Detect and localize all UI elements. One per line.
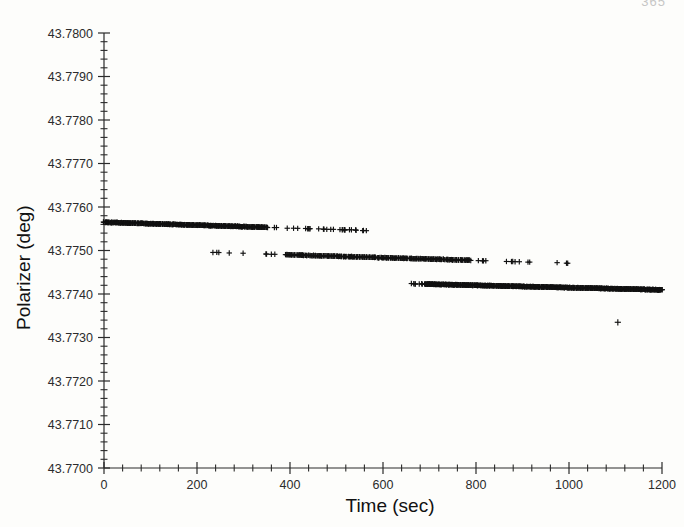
y-tick-label: 43.7800	[48, 27, 93, 41]
x-tick-label: 600	[373, 478, 394, 492]
y-tick-label: 43.7730	[48, 331, 93, 345]
y-tick-label: 43.7780	[48, 114, 93, 128]
y-tick-label: 43.7700	[48, 462, 93, 476]
data-points	[101, 219, 665, 325]
scatter-plot: 43.770043.771043.772043.773043.774043.77…	[0, 0, 684, 527]
x-tick-label: 400	[280, 478, 301, 492]
y-tick-label: 43.7760	[48, 201, 93, 215]
x-tick-label: 1200	[648, 478, 676, 492]
y-tick-label: 43.7720	[48, 375, 93, 389]
y-tick-label: 43.7770	[48, 157, 93, 171]
plot-axes	[104, 33, 662, 468]
x-tick-label: 200	[187, 478, 208, 492]
y-tick-label: 43.7740	[48, 288, 93, 302]
x-tick-label: 1000	[555, 478, 583, 492]
x-tick-label: 0	[101, 478, 108, 492]
y-tick-label: 43.7790	[48, 70, 93, 84]
x-tick-label: 800	[466, 478, 487, 492]
x-axis-label: Time (sec)	[345, 495, 434, 516]
y-axis-label: Polarizer (deg)	[13, 205, 34, 330]
y-tick-label: 43.7710	[48, 418, 93, 432]
y-tick-label: 43.7750	[48, 244, 93, 258]
axis-ticks	[98, 33, 662, 474]
scanned-chart-page: 365 43.770043.771043.772043.773043.77404…	[0, 0, 684, 527]
